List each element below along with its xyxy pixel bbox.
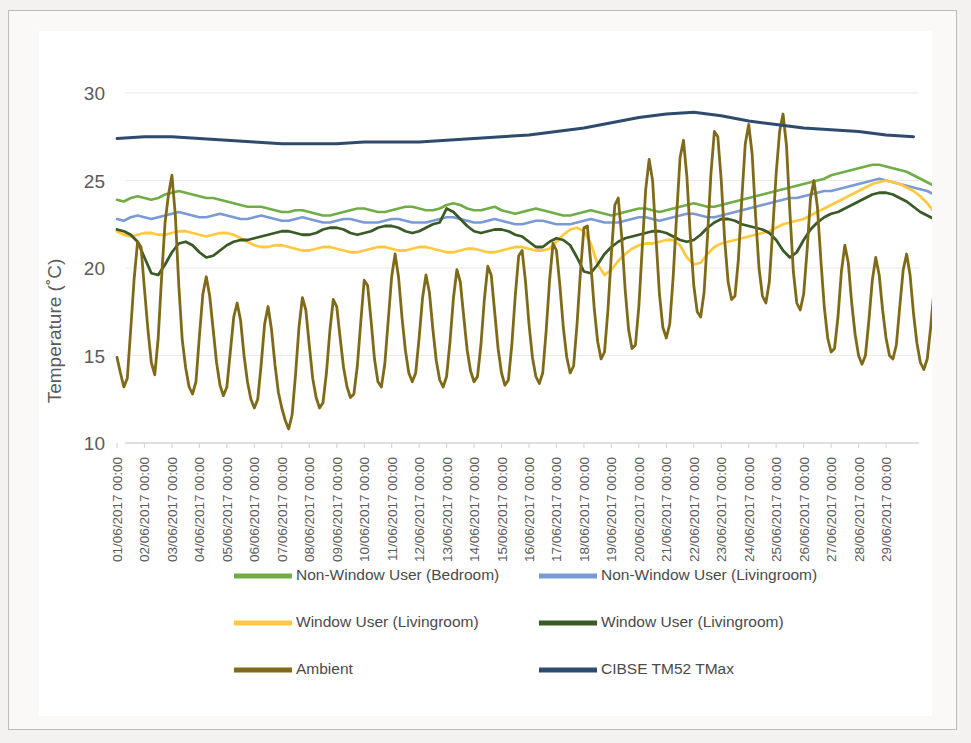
series-line: [117, 114, 932, 429]
y-axis-tick-label: 30: [84, 83, 105, 104]
legend-label[interactable]: Window User (Livingroom): [296, 613, 479, 630]
x-axis-tick-label: 01/06/2017 00:00: [110, 457, 125, 562]
x-axis-tick-label: 09/06/2017 00:00: [330, 457, 345, 562]
chart-legend: Non-Window User (Bedroom)Non-Window User…: [234, 566, 817, 677]
legend-label[interactable]: Ambient: [296, 660, 354, 677]
x-axis-tick-label: 26/06/2017 00:00: [797, 457, 812, 562]
x-axis-tick-label: 10/06/2017 00:00: [357, 457, 372, 562]
x-axis-tick-label: 12/06/2017 00:00: [412, 457, 427, 562]
legend-label[interactable]: Non-Window User (Livingroom): [601, 566, 817, 583]
y-axis-ticks-group: 1015202530: [84, 83, 105, 454]
x-axis-tick-label: 28/06/2017 00:00: [852, 457, 867, 562]
x-axis-tick-label: 15/06/2017 00:00: [495, 457, 510, 562]
page-root: 1015202530 Temperature (˚C) 01/06/2017 0…: [0, 0, 971, 743]
series-line: [117, 112, 914, 144]
y-axis-title-group: Temperature (˚C): [44, 259, 65, 404]
x-axis-tick-label: 06/06/2017 00:00: [247, 457, 262, 562]
y-axis-tick-label: 15: [84, 346, 105, 367]
x-axis-tick-label: 20/06/2017 00:00: [632, 457, 647, 562]
x-axis-tick-label: 08/06/2017 00:00: [302, 457, 317, 562]
x-axis-tick-label: 22/06/2017 00:00: [687, 457, 702, 562]
x-axis-tick-label: 23/06/2017 00:00: [714, 457, 729, 562]
x-axis-tick-label: 13/06/2017 00:00: [440, 457, 455, 562]
x-axis-tick-label: 07/06/2017 00:00: [275, 457, 290, 562]
x-axis-tick-label: 19/06/2017 00:00: [604, 457, 619, 562]
legend-label[interactable]: Non-Window User (Bedroom): [296, 566, 499, 583]
document-frame: 1015202530 Temperature (˚C) 01/06/2017 0…: [8, 10, 957, 730]
x-axis-tick-label: 16/06/2017 00:00: [522, 457, 537, 562]
x-axis-tick-label: 21/06/2017 00:00: [659, 457, 674, 562]
y-axis-tick-label: 25: [84, 171, 105, 192]
x-axis-tick-label: 27/06/2017 00:00: [824, 457, 839, 562]
x-axis-tick-label: 17/06/2017 00:00: [549, 457, 564, 562]
x-axis-tick-label: 24/06/2017 00:00: [742, 457, 757, 562]
y-axis-tick-label: 10: [84, 433, 105, 454]
y-axis-title: Temperature (˚C): [44, 259, 65, 404]
x-axis-tick-label: 04/06/2017 00:00: [192, 457, 207, 562]
legend-label[interactable]: CIBSE TM52 TMax: [601, 660, 734, 677]
x-axis-tick-label: 03/06/2017 00:00: [165, 457, 180, 562]
data-series-group: [117, 112, 932, 429]
x-axis-tick-label: 25/06/2017 00:00: [769, 457, 784, 562]
x-axis-line-group: [117, 443, 919, 448]
x-axis-tick-label: 14/06/2017 00:00: [467, 457, 482, 562]
legend-label[interactable]: Window User (Livingroom): [601, 613, 784, 630]
x-axis-tick-label: 02/06/2017 00:00: [137, 457, 152, 562]
x-axis-ticks-group: 01/06/2017 00:0002/06/2017 00:0003/06/20…: [110, 457, 894, 562]
x-axis-tick-label: 29/06/2017 00:00: [879, 457, 894, 562]
temperature-line-chart: 1015202530 Temperature (˚C) 01/06/2017 0…: [39, 31, 932, 716]
x-axis-tick-label: 05/06/2017 00:00: [220, 457, 235, 562]
x-axis-tick-label: 11/06/2017 00:00: [385, 457, 400, 561]
chart-canvas: 1015202530 Temperature (˚C) 01/06/2017 0…: [39, 31, 932, 716]
x-axis-tick-label: 18/06/2017 00:00: [577, 457, 592, 562]
y-axis-tick-label: 20: [84, 258, 105, 279]
